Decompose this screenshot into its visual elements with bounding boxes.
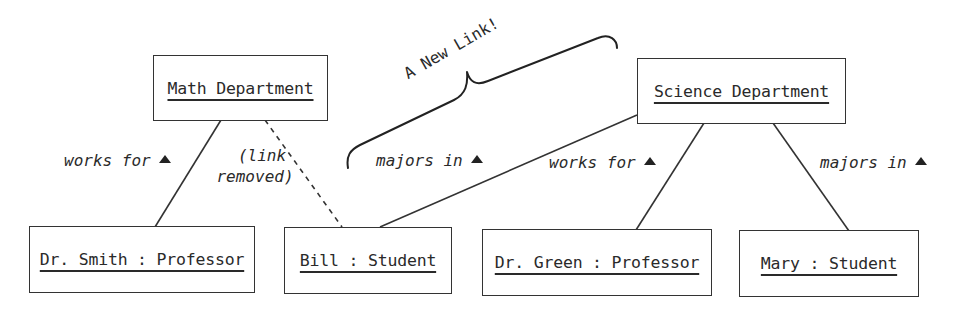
object-science-department: Science Department xyxy=(637,58,846,124)
assoc-text: majors in xyxy=(376,151,463,170)
assoc-label-green-works-for: works for xyxy=(549,153,656,172)
direction-triangle-icon xyxy=(915,157,927,165)
assoc-label-mary-majors-in: majors in xyxy=(820,153,927,172)
object-label: Math Department xyxy=(167,79,313,98)
assoc-text: majors in xyxy=(820,153,907,172)
removed-link-note: (link removed) xyxy=(205,146,305,188)
object-diagram: Math Department Science Department Dr. S… xyxy=(0,0,963,312)
object-dr-smith: Dr. Smith : Professor xyxy=(29,226,255,293)
assoc-text: works for xyxy=(64,151,151,170)
object-dr-green: Dr. Green : Professor xyxy=(482,229,712,296)
assoc-label-bill-majors-in: majors in xyxy=(376,151,483,170)
direction-triangle-icon xyxy=(471,155,483,163)
object-label: Science Department xyxy=(654,82,829,101)
object-label: Dr. Smith : Professor xyxy=(40,250,244,269)
direction-triangle-icon xyxy=(644,157,656,165)
direction-triangle-icon xyxy=(159,155,171,163)
object-label: Dr. Green : Professor xyxy=(495,253,699,272)
object-bill: Bill : Student xyxy=(284,227,452,294)
note-line-1: (link xyxy=(219,146,305,167)
note-line-2: removed) xyxy=(205,167,305,188)
link-mary-science xyxy=(773,123,849,231)
object-label: Bill : Student xyxy=(300,251,436,270)
object-label: Mary : Student xyxy=(761,254,897,273)
object-math-department: Math Department xyxy=(153,55,328,121)
object-mary: Mary : Student xyxy=(739,230,919,297)
link-green-science xyxy=(636,123,704,230)
assoc-text: works for xyxy=(549,153,636,172)
assoc-label-smith-works-for: works for xyxy=(64,151,171,170)
curly-brace-annotation xyxy=(348,36,618,168)
